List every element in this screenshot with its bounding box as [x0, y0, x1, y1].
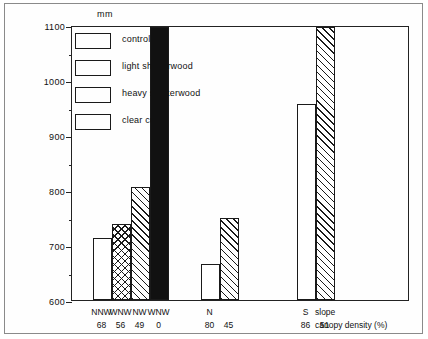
y-axis-tick-minor [69, 165, 73, 166]
y-axis-tick-minor [69, 110, 73, 111]
bar-control [93, 238, 112, 300]
legend-swatch-heavy-shelterwood [75, 87, 111, 103]
legend-label-clear-cut: clear cut [122, 115, 158, 125]
y-axis-tick-label: 600 [27, 297, 65, 307]
y-axis-tick-minor [69, 55, 73, 56]
x-axis-canopy-density-label: 0 [145, 320, 173, 330]
y-axis-tick-major [66, 27, 72, 28]
x-axis-slope-label: N [196, 307, 224, 317]
bar-heavy [316, 27, 335, 300]
y-axis-tick-major [66, 192, 72, 193]
legend-swatch-light-shelterwood [75, 60, 111, 76]
y-axis-unit-label: mm [97, 9, 113, 19]
y-axis-tick-label: 700 [27, 242, 65, 252]
x-axis-slope-label: WNW [145, 307, 173, 317]
y-axis-tick-major [66, 82, 72, 83]
bar-light [112, 224, 131, 300]
legend-label-heavy-shelterwood: heavy shelterwood [122, 88, 200, 98]
bar-control [297, 104, 316, 300]
legend-swatch-control [75, 33, 111, 49]
figure-frame: mm control light shelterwood heavy shelt… [4, 3, 423, 334]
y-axis-tick-minor [69, 275, 73, 276]
y-axis-tick-label: 900 [27, 132, 65, 142]
legend-label-control: control [122, 34, 150, 44]
legend-label-light-shelterwood: light shelterwood [122, 61, 193, 71]
y-axis-tick-label: 1100 [27, 22, 65, 32]
y-axis-tick-label: 1000 [27, 77, 65, 87]
bar-heavy [220, 218, 239, 301]
y-axis-tick-label: 800 [27, 187, 65, 197]
axis-row-label-canopy-density: canopy density (%) [315, 320, 387, 330]
legend-swatch-clear-cut [75, 114, 111, 130]
axis-row-label-slope: slope [315, 307, 335, 317]
y-axis-tick-minor [69, 220, 73, 221]
x-axis-canopy-density-label: 45 [215, 320, 243, 330]
y-axis-tick-major [66, 247, 72, 248]
bar-heavy [131, 187, 150, 300]
bar-control [201, 264, 220, 300]
y-axis-tick-major [66, 137, 72, 138]
y-axis-tick-major [66, 302, 72, 303]
